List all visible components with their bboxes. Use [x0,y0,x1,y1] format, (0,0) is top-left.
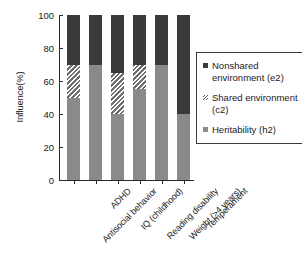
bar-segment-nonshared-environment [67,15,80,65]
y-axis-line [59,15,60,181]
legend-label-shared: Shared environment (c2) [212,92,302,115]
hatched-square-icon [203,95,208,100]
dark-square-icon [203,63,208,68]
y-tick-mark [60,48,63,49]
y-tick-mark [60,180,63,181]
y-axis-title: Influence(%) [14,52,28,142]
bar-segment-shared-environment [67,65,80,98]
bar-segment-heritability [89,65,102,181]
legend-label-nonshared: Nonshared environment (e2) [212,60,302,83]
plot-area: 020406080100 [60,15,193,180]
stacked-bar-chart: Influence(%) 020406080100 Nonshared envi… [0,0,302,267]
bar-segment-nonshared-environment [133,15,146,65]
x-tick-mark [140,180,141,184]
y-tick-80: 80 [43,43,60,54]
x-tick-mark [74,180,75,184]
legend-item-shared: Shared environment (c2) [203,92,302,115]
bar-weight-4-years [155,15,168,180]
bar-segment-nonshared-environment [89,15,102,65]
y-tick-0: 0 [49,175,60,186]
y-tick-20: 20 [43,142,60,153]
gray-square-icon [203,127,208,132]
bar-segment-heritability [133,89,146,180]
bar-segment-nonshared-environment [111,15,124,73]
bar-antisocial-behavior [67,15,80,180]
x-tick-mark [162,180,163,184]
bar-segment-heritability [111,114,124,180]
legend-item-nonshared: Nonshared environment (e2) [203,60,302,83]
y-tick-mark [60,147,63,148]
bar-segment-nonshared-environment [155,15,168,65]
bar-segment-shared-environment [133,65,146,90]
bar-adhd [89,15,102,180]
x-tick-mark [184,180,185,184]
legend-item-heritability: Heritability (h2) [203,124,302,136]
x-axis-line [59,180,194,181]
figure-caption [0,259,302,267]
chart-legend: Nonshared environment (e2) Shared enviro… [196,52,302,144]
bar-segment-shared-environment [111,73,124,114]
bar-reading-disability [133,15,146,180]
y-tick-mark [60,81,63,82]
y-tick-60: 60 [43,76,60,87]
y-tick-100: 100 [38,10,60,21]
bar-iq-childhood [111,15,124,180]
bar-segment-heritability [67,98,80,181]
x-tick-mark [96,180,97,184]
bar-temperament [177,15,190,180]
bar-segment-heritability [177,114,190,180]
legend-label-heritability: Heritability (h2) [212,124,276,136]
bar-segment-nonshared-environment [177,15,190,114]
y-tick-mark [60,114,63,115]
bar-segment-heritability [155,65,168,181]
x-tick-mark [118,180,119,184]
y-tick-mark [60,15,63,16]
y-tick-40: 40 [43,109,60,120]
